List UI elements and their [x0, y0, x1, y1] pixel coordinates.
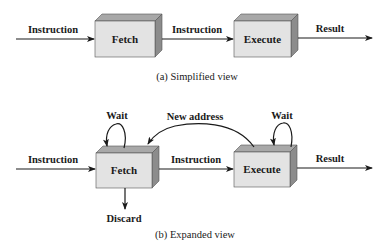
instruction-label: Instruction [172, 24, 222, 35]
execute-label: Execute [244, 33, 281, 45]
execute-box: Execute [234, 14, 298, 57]
fetch-label: Fetch [112, 33, 138, 45]
fetch-wait-label: Wait [106, 110, 128, 121]
execute-wait-loop [273, 123, 291, 147]
input-label: Instruction [28, 24, 78, 35]
caption-simplified: (a) Simplified view [156, 71, 238, 83]
discard-label: Discard [107, 213, 142, 224]
result-label: Result [316, 23, 345, 34]
simplified-view: Instruction Fetch Instruction Execute Re… [16, 14, 372, 83]
result-label: Result [316, 153, 345, 164]
execute-wait-label: Wait [271, 110, 293, 121]
execute-box: Execute [234, 145, 297, 187]
instruction-label: Instruction [171, 154, 221, 165]
fetch-label: Fetch [111, 164, 137, 176]
new-address-label: New address [167, 111, 224, 122]
pipeline-diagram: Instruction Fetch Instruction Execute Re… [0, 0, 385, 250]
execute-label: Execute [243, 163, 280, 175]
caption-expanded: (b) Expanded view [155, 229, 235, 241]
fetch-box: Fetch [95, 14, 162, 57]
expanded-view: Instruction Fetch Wait Instruction Execu… [16, 110, 372, 241]
fetch-box: Fetch [96, 146, 159, 188]
new-address-arc [148, 124, 254, 147]
fetch-wait-loop [106, 124, 125, 148]
input-label: Instruction [28, 154, 78, 165]
